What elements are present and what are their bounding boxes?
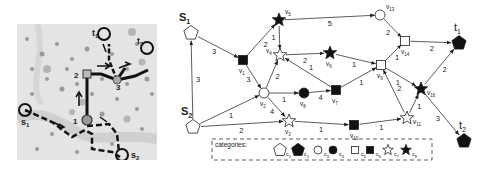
node-c1-icon: [184, 26, 198, 40]
node-c3-icon: [259, 88, 269, 98]
node-v7: v7: [332, 86, 341, 106]
legend-item-c4: c4: [329, 146, 345, 159]
node-label: v16: [427, 89, 436, 98]
edge-weight: 1: [352, 60, 356, 69]
node-v8: v8: [299, 88, 309, 109]
node-c6-icon: [239, 56, 248, 65]
node-c6-icon: [332, 86, 341, 95]
edge-weight: 5: [328, 19, 332, 28]
node-c8-icon: [323, 46, 336, 59]
legend-label: c8: [412, 151, 418, 159]
node-label: v2: [260, 100, 266, 109]
legend-square-filled-icon: [366, 146, 373, 153]
node-s2: S2: [181, 105, 200, 133]
edges-layer: 33122315221441111121112223: [191, 15, 459, 135]
node-label: t1: [454, 21, 461, 35]
legend-item-c3: c3: [314, 146, 330, 159]
node-t1: t1: [452, 21, 466, 49]
edge-weight: 4: [270, 107, 274, 116]
legend-item-c2: c2: [292, 143, 310, 158]
node-t2: t2: [457, 119, 471, 147]
edge-weight: 1: [417, 102, 421, 111]
legend-label: c2: [304, 151, 310, 159]
legend-items: c1c2c3c4c5c6c7c8: [274, 143, 418, 158]
category-graph: 33122315221441111121112223 S1S2v1v2v3v4v…: [0, 0, 489, 172]
edge-v5-v4: [279, 26, 280, 49]
legend-pentagon-outline-icon: [274, 143, 287, 155]
legend-label: c3: [324, 151, 330, 159]
legend-label: c1: [286, 151, 292, 159]
node-c2-icon: [457, 134, 471, 148]
node-c1-icon: [186, 120, 200, 134]
node-v3: v3: [282, 114, 295, 137]
node-label: v5: [285, 8, 291, 17]
edge-v14-t1: [410, 41, 451, 43]
node-c7-icon: [273, 48, 286, 61]
node-c2-icon: [452, 36, 466, 50]
legend-label: c4: [339, 151, 345, 159]
legend-item-c6: c6: [366, 146, 381, 158]
legend-square-outline-icon: [351, 146, 358, 153]
edge-weight: 2: [239, 126, 243, 135]
edge-s1-v1: [198, 37, 238, 58]
node-c5-icon: [401, 37, 410, 46]
edge-weight: 2: [303, 56, 307, 65]
edge-weight: 4: [319, 93, 323, 102]
node-v10: v10: [350, 121, 359, 141]
node-v13: v13: [375, 3, 395, 20]
node-label: v14: [401, 48, 410, 57]
legend-label: c7: [394, 151, 400, 159]
node-v14: v14: [401, 37, 410, 57]
node-v4: v4: [266, 47, 287, 61]
legend-item-c8: c8: [401, 144, 418, 158]
node-c3-icon: [375, 10, 385, 20]
node-c6-icon: [350, 121, 359, 130]
edge-weight: 3: [212, 47, 216, 56]
node-label: v6: [326, 60, 332, 69]
edge-v16-t1: [425, 49, 454, 84]
edge-s2-s1: [191, 41, 193, 119]
node-c7-icon: [400, 111, 413, 124]
node-label: v7: [332, 97, 338, 106]
node-c8-icon: [272, 13, 285, 26]
legend-item-c1: c1: [274, 143, 292, 158]
edge-weight: 2: [430, 44, 434, 53]
edge-weight: 1: [282, 95, 286, 104]
node-label: S1: [179, 11, 190, 25]
legend-star-outline-icon: [383, 144, 394, 154]
legend-star-filled-icon: [401, 144, 412, 154]
edge-weight: 1: [309, 63, 313, 72]
node-c4-icon: [299, 88, 309, 98]
graph-canvas: 33122315221441111121112223 S1S2v1v2v3v4v…: [0, 0, 489, 172]
node-v2: v2: [259, 88, 269, 109]
node-label: v4: [266, 47, 272, 56]
legend-label: c5: [361, 151, 367, 159]
legend-label: c6: [376, 151, 382, 159]
legend-circle-outline-icon: [314, 146, 322, 154]
node-label: v1: [239, 67, 245, 76]
edge-weight: 1: [396, 78, 400, 87]
edge-v16-t2: [425, 94, 459, 135]
legend-circle-filled-icon: [329, 146, 337, 154]
legend-item-c7: c7: [383, 144, 400, 158]
edge-weight: 1: [359, 78, 363, 87]
edge-weight: 2: [386, 28, 390, 37]
node-c5-icon: [377, 61, 386, 70]
edge-weight: 3: [246, 75, 250, 84]
node-label: v13: [386, 3, 395, 12]
legend-title: categories:: [215, 141, 247, 149]
node-label: v9: [377, 72, 383, 81]
edge-weight: 1: [271, 33, 275, 42]
legend-pentagon-filled-icon: [292, 143, 305, 155]
node-v5: v5: [272, 8, 291, 26]
node-s1: S1: [179, 11, 198, 39]
node-label: t2: [459, 119, 466, 133]
node-label: v11: [413, 118, 421, 127]
node-v6: v6: [323, 46, 336, 69]
node-label: v8: [300, 100, 306, 109]
edge-weight: 3: [196, 75, 200, 84]
edge-weight: 3: [436, 114, 440, 123]
edge-weight: 1: [395, 53, 399, 62]
node-label: S2: [181, 105, 192, 119]
node-v11: v11: [400, 111, 421, 127]
